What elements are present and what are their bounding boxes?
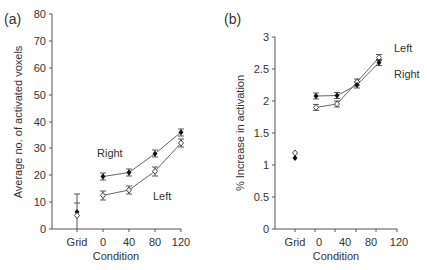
x-tick-label: 0	[100, 236, 106, 248]
panel-a-x-ticks: Grid 0 40 80 120	[67, 229, 191, 248]
panel-b-y-label: % Increase in activation	[234, 75, 246, 191]
panel-a-y-ticks: 0 10 20 30 40 50 60 70 80	[34, 8, 52, 235]
y-tick-label: 0	[263, 223, 269, 235]
x-tick-label: Grid	[285, 236, 306, 248]
y-tick-label: 0.5	[254, 191, 269, 203]
y-tick-label: 70	[34, 35, 46, 47]
panel-b-errorbars	[295, 55, 382, 161]
x-tick-label: 40	[123, 236, 135, 248]
panel-a-right-markers	[75, 129, 184, 215]
panel-b-annotation-left: Left	[394, 42, 412, 54]
x-tick-label: Grid	[67, 236, 88, 248]
y-tick-label: 3	[263, 31, 269, 43]
y-tick-label: 0	[40, 223, 46, 235]
y-tick-label: 60	[34, 62, 46, 74]
panel-a-label: (a)	[4, 11, 21, 27]
y-tick-label: 50	[34, 89, 46, 101]
panel-a: (a) 0 10 20 30 40 50 60 70 80 Grid 0 40 …	[4, 8, 190, 262]
y-tick-label: 1.5	[254, 127, 269, 139]
panel-b-x-label: Condition	[313, 250, 359, 262]
y-tick-label: 2	[263, 95, 269, 107]
panel-b-annotation-right: Right	[394, 68, 420, 80]
panel-b-y-ticks: 0 0.5 1 1.5 2 2.5 3	[254, 31, 275, 235]
panel-a-left-markers	[75, 140, 184, 219]
y-tick-label: 1	[263, 159, 269, 171]
panel-b-right-markers	[293, 60, 382, 162]
y-tick-label: 30	[34, 142, 46, 154]
panel-a-annotation-left: Left	[153, 190, 171, 202]
x-tick-label: 120	[172, 236, 190, 248]
panel-a-y-label: Average no. of activated voxels	[12, 45, 24, 198]
figure: (a) 0 10 20 30 40 50 60 70 80 Grid 0 40 …	[0, 0, 427, 270]
panel-b: (b) 0 0.5 1 1.5 2 2.5 3 Grid 0 40 80 120…	[224, 11, 420, 262]
y-tick-label: 2.5	[254, 63, 269, 75]
x-tick-label: 40	[339, 236, 351, 248]
x-tick-label: 0	[316, 236, 322, 248]
x-tick-label: 80	[365, 236, 377, 248]
y-tick-label: 10	[34, 196, 46, 208]
y-tick-label: 20	[34, 169, 46, 181]
panel-a-x-label: Condition	[93, 250, 139, 262]
y-tick-label: 80	[34, 8, 46, 20]
y-tick-label: 40	[34, 116, 46, 128]
panel-b-x-ticks: Grid 0 40 80 120	[285, 229, 409, 248]
panel-b-left-line	[316, 58, 379, 108]
panel-a-annotation-right: Right	[97, 147, 123, 159]
x-tick-label: 120	[390, 236, 408, 248]
x-tick-label: 80	[149, 236, 161, 248]
panel-b-label: (b)	[224, 11, 241, 27]
